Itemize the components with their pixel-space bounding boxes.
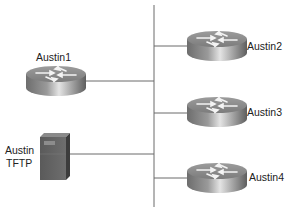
router-icon-austin3 [187,97,247,127]
router-icon-austin2 [187,31,247,61]
router-label-austin1: Austin1 [36,51,71,63]
network-diagram: Austin1 Austin2 Austin3 Austin4 Austin T… [0,0,293,210]
router-label-austin2: Austin2 [247,40,282,52]
server-label-line2: TFTP [6,157,32,169]
router-label-austin3: Austin3 [247,106,282,118]
server-icon-tftp [40,133,70,180]
server-label-line1: Austin [5,144,34,156]
router-icon-austin1 [26,66,86,96]
router-label-austin4: Austin4 [249,171,284,183]
router-icon-austin4 [187,163,247,193]
